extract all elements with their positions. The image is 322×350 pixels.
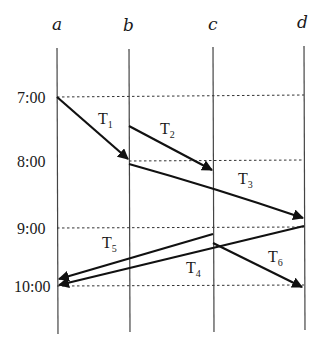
time-gridline-7 — [57, 95, 304, 97]
site-line-d — [304, 46, 305, 330]
time-label-10: 10:00 — [14, 278, 50, 295]
transaction-label-t3: T3 — [238, 170, 253, 190]
site-line-b — [129, 49, 130, 332]
transaction-arrow-t1 — [57, 97, 128, 159]
site-label-d: d — [297, 12, 308, 32]
transaction-arrow-t6 — [213, 243, 302, 287]
transaction-timeline-diagram: a b c d 7:00 8:00 9:00 10:00 T1 T2 T3 T4… — [0, 0, 322, 350]
time-label-9: 9:00 — [17, 220, 45, 237]
transaction-label-t4: T4 — [186, 259, 201, 279]
transaction-label-t5: T5 — [102, 234, 117, 254]
site-label-c: c — [208, 14, 218, 34]
site-line-a — [57, 48, 58, 334]
site-label-a: a — [52, 14, 62, 34]
transaction-arrow-t3 — [129, 164, 303, 218]
time-gridline-8 — [129, 160, 304, 161]
time-gridline-10 — [57, 285, 304, 286]
site-label-b: b — [123, 15, 134, 35]
transaction-label-t1: T1 — [98, 110, 113, 130]
transaction-label-t2: T2 — [160, 120, 175, 140]
time-label-8: 8:00 — [17, 153, 45, 170]
transaction-label-t6: T6 — [268, 248, 283, 268]
time-label-7: 7:00 — [17, 89, 45, 106]
time-gridline-9 — [57, 227, 304, 228]
